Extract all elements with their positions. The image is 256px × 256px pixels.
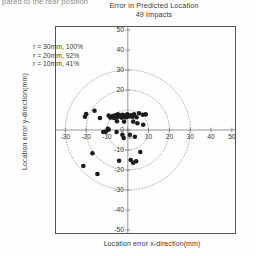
chart-title-text: Error in Predicted Location bbox=[109, 1, 198, 10]
chart-subtitle: 49 Impacts bbox=[0, 10, 256, 19]
data-point bbox=[92, 109, 97, 114]
data-point bbox=[83, 115, 88, 120]
data-point bbox=[115, 119, 120, 124]
chart-subtitle-text: 49 Impacts bbox=[136, 10, 173, 19]
x-axis-title: Location error x-direction(mm) bbox=[0, 240, 256, 247]
axis-lines bbox=[55, 26, 236, 234]
data-point bbox=[81, 164, 86, 169]
data-point bbox=[133, 135, 138, 140]
data-point bbox=[135, 121, 140, 126]
data-point bbox=[128, 133, 133, 138]
chart-title: Error in Predicted Location bbox=[0, 1, 256, 10]
data-point bbox=[117, 159, 122, 164]
y-axis-title: Location error y-direction(mm) bbox=[21, 52, 28, 192]
data-point bbox=[141, 123, 146, 128]
data-point bbox=[134, 115, 139, 120]
data-point bbox=[114, 130, 119, 135]
x-axis-title-text: Location error x-direction(mm) bbox=[104, 240, 201, 247]
data-point bbox=[90, 151, 95, 156]
data-point bbox=[122, 119, 127, 124]
data-point bbox=[121, 136, 126, 141]
data-point bbox=[131, 119, 136, 124]
data-point bbox=[95, 172, 100, 177]
data-point bbox=[134, 159, 139, 164]
data-points bbox=[81, 109, 148, 177]
figure-root: pared to the rear position Error in Pred… bbox=[0, 0, 256, 256]
data-point bbox=[98, 116, 103, 121]
scatter-svg bbox=[55, 26, 236, 234]
scatter-plot-canvas bbox=[55, 26, 236, 234]
data-point bbox=[138, 150, 143, 155]
data-point bbox=[101, 130, 106, 135]
data-point bbox=[143, 112, 148, 117]
